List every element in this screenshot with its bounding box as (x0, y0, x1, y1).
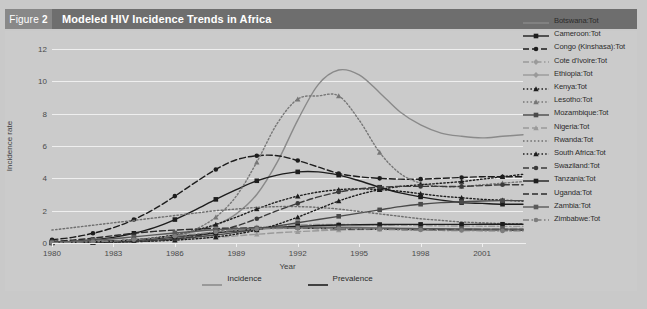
x-axis-tick-label: 2001 (473, 249, 491, 258)
legend-item[interactable]: Rwanda:Tot (522, 133, 632, 146)
legend-item-label: Uganda:Tot (554, 188, 592, 197)
y-axis-tick-labels: 024681012 (5, 49, 47, 243)
legend-item[interactable]: Kenya:Tot (522, 80, 632, 93)
series-line (52, 185, 523, 243)
bottom-legend-label: Prevalence (333, 274, 373, 283)
plot-area (52, 49, 523, 243)
bottom-legend-line-icon (308, 275, 328, 283)
legend-item-label: Nigeria:Tot (554, 122, 589, 131)
legend-line-icon (522, 81, 550, 93)
legend-item-label: Kenya:Tot (554, 82, 587, 91)
bottom-legend-label: Incidence (227, 274, 261, 283)
y-axis-tick-label: 4 (43, 174, 47, 183)
series-lines (52, 49, 523, 243)
y-axis-tick-label: 6 (43, 142, 47, 151)
legend-item[interactable]: Nigeria:Tot (522, 120, 632, 133)
legend-line-icon (522, 28, 550, 40)
x-axis-tick-label: 1998 (412, 249, 430, 258)
bottom-legend-line-icon (202, 275, 222, 283)
x-axis-tick (236, 243, 237, 247)
legend-line-icon (522, 15, 550, 27)
legend-item[interactable]: Zambia:Tot (522, 199, 632, 212)
legend-item[interactable]: Lesotho:Tot (522, 93, 632, 106)
legend-line-icon (522, 107, 550, 119)
legend-item[interactable]: Mozambique:Tot (522, 106, 632, 119)
legend-item[interactable]: Swaziland:Tot (522, 159, 632, 172)
legend-line-icon (522, 212, 550, 224)
figure-root: Figure 2 Modeled HIV Incidence Trends in… (0, 0, 647, 309)
legend-line-icon (522, 54, 550, 66)
legend-line-icon (522, 186, 550, 198)
legend-item[interactable]: Botswana:Tot (522, 14, 632, 27)
legend-item-label: South Africa:Tot (554, 148, 606, 157)
legend-line-icon (522, 173, 550, 185)
legend-item-label: Lesotho:Tot (554, 95, 592, 104)
y-axis-tick-label: 2 (43, 206, 47, 215)
legend-item-label: Zimbabwe:Tot (554, 214, 600, 223)
x-axis-tick-label: 1989 (227, 249, 245, 258)
figure-badge-number: 2 (42, 14, 48, 25)
legend-item[interactable]: Uganda:Tot (522, 185, 632, 198)
legend-item-label: Zambia:Tot (554, 201, 591, 210)
legend-item[interactable]: Cameroon:Tot (522, 27, 632, 40)
legend-item-label: Cote d'Ivoire:Tot (554, 56, 607, 65)
x-axis-tick (359, 243, 360, 247)
x-axis-tick (52, 243, 53, 247)
figure-number-badge: Figure 2 (5, 9, 52, 29)
series-line (52, 70, 523, 243)
legend-line-icon (522, 160, 550, 172)
legend-item[interactable]: South Africa:Tot (522, 146, 632, 159)
x-axis-tick-label: 1992 (289, 249, 307, 258)
x-axis-tick-label: 1983 (105, 249, 123, 258)
legend-item[interactable]: Ethiopia:Tot (522, 67, 632, 80)
x-axis-tick-label: 1986 (166, 249, 184, 258)
legend-item-label: Botswana:Tot (554, 16, 598, 25)
x-axis-line (52, 243, 526, 244)
legend-item[interactable]: Tanzania:Tot (522, 172, 632, 185)
bottom-legend-item[interactable]: Prevalence (308, 274, 373, 283)
legend-line-icon (522, 199, 550, 211)
legend-line-icon (522, 133, 550, 145)
bottom-legend-item[interactable]: Incidence (202, 274, 261, 283)
legend-item-label: Congo (Kinshasa):Tot (554, 42, 625, 51)
legend-item-label: Tanzania:Tot (554, 174, 595, 183)
series-line (52, 189, 523, 243)
legend-item-label: Rwanda:Tot (554, 135, 593, 144)
legend-line-icon (522, 41, 550, 53)
y-axis-tick-label: 12 (38, 45, 47, 54)
legend-line-icon (522, 120, 550, 132)
y-axis-tick-label: 10 (38, 77, 47, 86)
legend-item[interactable]: Congo (Kinshasa):Tot (522, 40, 632, 53)
legend-item-label: Ethiopia:Tot (554, 69, 592, 78)
x-axis-tick (421, 243, 422, 247)
series-legend: Botswana:TotCameroon:TotCongo (Kinshasa)… (522, 14, 632, 225)
legend-item-label: Cameroon:Tot (554, 29, 601, 38)
incidence-prevalence-legend: IncidencePrevalence (52, 274, 523, 283)
x-axis-tick-label: 1995 (350, 249, 368, 258)
figure-badge-prefix: Figure (9, 14, 39, 25)
legend-item[interactable]: Cote d'Ivoire:Tot (522, 54, 632, 67)
legend-line-icon (522, 67, 550, 79)
y-axis-tick-label: 0 (43, 239, 47, 248)
legend-item[interactable]: Zimbabwe:Tot (522, 212, 632, 225)
legend-item-label: Swaziland:Tot (554, 161, 600, 170)
y-axis-tick-label: 8 (43, 109, 47, 118)
x-axis-tick (298, 243, 299, 247)
x-axis-title: Year (52, 262, 523, 271)
legend-line-icon (522, 94, 550, 106)
x-axis-tick (482, 243, 483, 247)
legend-line-icon (522, 146, 550, 158)
x-axis-tick-label: 1980 (43, 249, 61, 258)
legend-item-label: Mozambique:Tot (554, 108, 608, 117)
x-axis-tick (175, 243, 176, 247)
x-axis-tick (113, 243, 114, 247)
